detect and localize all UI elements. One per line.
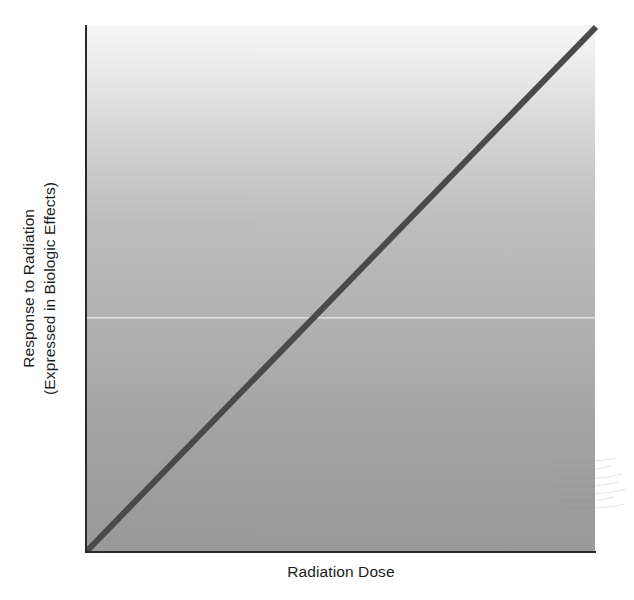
x-axis-label: Radiation Dose [87, 563, 595, 581]
paper-grain-texture [87, 25, 595, 552]
y-axis-label: Response to Radiation (Expressed in Biol… [0, 0, 80, 576]
scan-seam-artifact [87, 317, 595, 319]
y-axis-label-line-1: Response to Radiation [19, 181, 40, 394]
y-axis-label-line-2: (Expressed in Biologic Effects) [40, 181, 61, 394]
y-axis-line [85, 25, 87, 553]
dose-response-figure: Response to Radiation (Expressed in Biol… [0, 0, 634, 600]
plot-area [87, 25, 595, 552]
x-axis-line [85, 551, 596, 553]
y-axis-label-text: Response to Radiation (Expressed in Biol… [19, 181, 62, 394]
